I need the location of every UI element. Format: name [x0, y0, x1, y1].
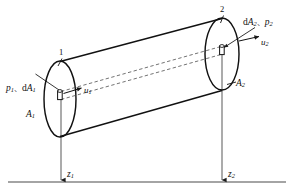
outlet-elevation-subscript: 2	[232, 172, 235, 179]
inlet-label-separator: 、	[14, 84, 22, 93]
inlet-area-subscript: 1	[33, 86, 36, 93]
stream-tube-figure: 1 2 p1、dA1 dA2、p2 u1 u2 A1 A2 z1 z2	[0, 0, 293, 195]
inlet-section-area-label: A1	[26, 110, 35, 120]
outlet-section-area-subscript: 2	[242, 81, 245, 88]
outlet-velocity-subscript: 2	[266, 41, 269, 47]
outlet-velocity-label: u2	[261, 38, 269, 47]
outlet-label-leader-line	[224, 28, 255, 48]
stream-tube-body	[60, 19, 222, 137]
outlet-elemental-area-element	[220, 45, 225, 55]
outlet-section-area-label: A2	[236, 79, 245, 89]
outlet-label-separator: 、	[257, 18, 265, 27]
station-1-label: 1	[59, 48, 63, 57]
inlet-velocity-vector	[64, 88, 82, 94]
outlet-pressure-area-label: dA2、p2	[243, 18, 273, 28]
inlet-velocity-label: u1	[84, 86, 92, 95]
station-1-tick	[58, 59, 62, 67]
outlet-velocity-vector	[239, 37, 259, 42]
inlet-elemental-area-element	[58, 90, 63, 100]
stream-tube-drawing	[0, 0, 293, 195]
inlet-velocity-subscript: 1	[89, 89, 92, 95]
outlet-pressure-subscript: 2	[270, 20, 273, 27]
inlet-pressure-area-label: p1、dA1	[6, 84, 36, 94]
outlet-elevation-label: z2	[228, 170, 235, 180]
inlet-elevation-subscript: 1	[71, 172, 74, 179]
inlet-elevation-label: z1	[67, 170, 74, 180]
inlet-section-area-subscript: 1	[32, 112, 35, 119]
station-2-label: 2	[220, 5, 224, 14]
